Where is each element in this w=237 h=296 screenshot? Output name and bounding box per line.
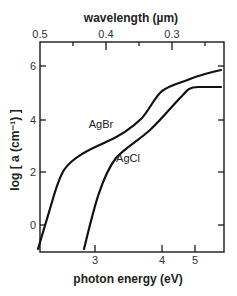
bottom-tick-3: 3 xyxy=(92,254,98,266)
agcl-curve xyxy=(84,87,221,249)
bottom-axis-ticks xyxy=(95,245,195,252)
bottom-tick-4: 4 xyxy=(159,254,165,266)
top-tick-0.5: 0.5 xyxy=(32,28,47,40)
bottom-tick-5: 5 xyxy=(192,254,198,266)
agbr-label: AgBr xyxy=(89,118,114,130)
left-tick-4: 4 xyxy=(30,114,36,126)
top-axis-ticks xyxy=(73,42,205,50)
left-axis-ticks xyxy=(40,66,46,225)
right-axis-ticks xyxy=(218,66,224,225)
left-tick-2: 2 xyxy=(30,166,36,178)
top-axis-title: wavelength (µm) xyxy=(83,11,178,25)
top-tick-0.4: 0.4 xyxy=(98,28,113,40)
left-tick-6: 6 xyxy=(30,60,36,72)
top-tick-0.3: 0.3 xyxy=(164,28,179,40)
absorption-chart: 0.5 0.4 0.3 wavelength (µm) 3 4 5 photon… xyxy=(0,0,237,296)
agcl-label: AgCl xyxy=(116,152,140,164)
left-tick-0: 0 xyxy=(30,219,36,231)
bottom-axis-title: photon energy (eV) xyxy=(73,272,182,286)
left-axis-title: log [ a (cm⁻¹) ] xyxy=(8,109,22,190)
plot-frame xyxy=(40,42,224,252)
